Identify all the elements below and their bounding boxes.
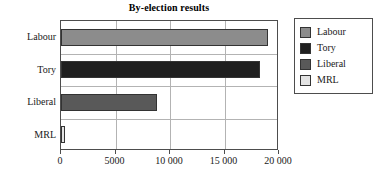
plot-area: [60, 20, 278, 150]
legend-label: Labour: [317, 27, 346, 37]
legend-item-labour: Labour: [300, 24, 368, 40]
y-tick-label-labour: Labour: [2, 31, 56, 42]
x-tick-label: 20 000: [264, 155, 292, 166]
bars-layer: [61, 21, 277, 149]
x-tick-mark: [169, 150, 170, 154]
legend-label: MRL: [317, 75, 339, 85]
x-tick-mark: [278, 150, 279, 154]
x-tick-mark: [60, 150, 61, 154]
x-axis-tick-labels: 0500010 00015 00020 000: [60, 150, 278, 172]
x-tick-label: 15 000: [210, 155, 238, 166]
legend-label: Liberal: [317, 59, 346, 69]
y-axis-tick-labels: LabourToryLiberalMRL: [0, 20, 56, 150]
x-tick-label: 5000: [105, 155, 125, 166]
legend-item-liberal: Liberal: [300, 56, 368, 72]
legend-swatch-mrl: [300, 75, 311, 86]
chart-legend: LabourToryLiberalMRL: [294, 18, 373, 94]
bar-row: [61, 21, 268, 54]
x-tick-mark: [115, 150, 116, 154]
x-tick-label: 10 000: [155, 155, 183, 166]
bar-row: [61, 119, 65, 152]
bar-liberal: [61, 94, 157, 111]
bar-tory: [61, 61, 260, 78]
bar-row: [61, 54, 260, 87]
legend-swatch-liberal: [300, 59, 311, 70]
legend-swatch-tory: [300, 43, 311, 54]
bar-mrl: [61, 126, 65, 143]
y-tick-label-tory: Tory: [2, 63, 56, 74]
legend-item-tory: Tory: [300, 40, 368, 56]
chart-figure: By-election results LabourToryLiberalMRL…: [0, 0, 377, 178]
legend-label: Tory: [317, 43, 336, 53]
y-tick-label-liberal: Liberal: [2, 96, 56, 107]
x-tick-label: 0: [58, 155, 63, 166]
chart-title: By-election results: [60, 2, 278, 13]
bar-row: [61, 86, 157, 119]
legend-swatch-labour: [300, 27, 311, 38]
y-tick-label-mrl: MRL: [2, 128, 56, 139]
x-tick-mark: [224, 150, 225, 154]
legend-item-mrl: MRL: [300, 72, 368, 88]
bar-labour: [61, 29, 268, 46]
